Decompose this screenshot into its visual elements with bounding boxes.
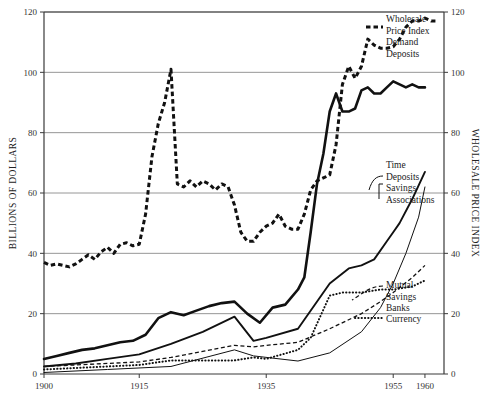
y2-axis-title: WHOLESALE PRICE INDEX [470,129,480,258]
y-tick-label-80: 80 [28,128,38,138]
x-tick-label-1955: 1955 [384,381,403,391]
y-tick-label-20: 20 [28,309,38,319]
y2-tick-label-80: 80 [451,128,461,138]
y-tick-label-100: 100 [24,68,38,78]
x-tick-label-1900: 1900 [35,381,54,391]
y2-tick-label-60: 60 [451,188,461,198]
series-label-wholesale-price-index: WholesalePrice Index [386,14,430,36]
series-label-demand-deposits: DemandDeposits [386,37,420,59]
y-tick-label-0: 0 [33,369,38,379]
series-label-currency: Currency [386,314,422,324]
y2-tick-label-100: 100 [451,68,465,78]
line-chart: 020406080100120 020406080100120 19001915… [0,0,481,397]
x-tick-label-1915: 1915 [130,381,149,391]
x-tick-label-1960: 1960 [416,381,435,391]
y-tick-label-60: 60 [28,188,38,198]
y2-tick-label-0: 0 [451,369,456,379]
y2-tick-label-20: 20 [451,309,461,319]
y-axis-title: BILLIONS OF DOLLARS [8,137,18,250]
x-tick-label-1935: 1935 [257,381,276,391]
chart-figure: 020406080100120 020406080100120 19001915… [0,0,481,397]
y2-tick-label-120: 120 [451,7,465,17]
y-tick-label-120: 120 [24,7,38,17]
y2-tick-label-40: 40 [451,249,461,259]
y-tick-label-40: 40 [28,249,38,259]
